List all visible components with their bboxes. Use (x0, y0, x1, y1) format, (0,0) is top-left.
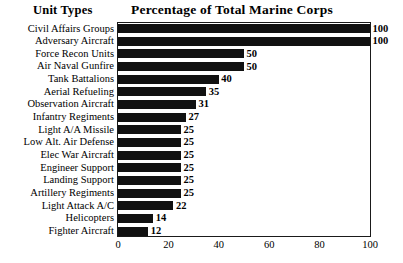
bar-container: 35 (118, 87, 206, 96)
bar-row: Force Recon Units50 (0, 47, 403, 60)
bar (118, 37, 370, 46)
x-axis-tick-label: 60 (264, 239, 275, 250)
bar-value-label: 40 (219, 73, 232, 85)
bar-container: 22 (118, 201, 173, 210)
bar-value-label: 50 (244, 48, 257, 60)
bar (118, 75, 219, 84)
bar-category-label: Civil Affairs Groups (28, 22, 114, 35)
unit-types-column-heading: Unit Types (33, 3, 93, 18)
bar-chart: Unit Types Percentage of Total Marine Co… (0, 0, 403, 263)
bar-row: Light Attack A/C22 (0, 199, 403, 212)
bar-category-label: Helicopters (66, 211, 114, 224)
bar-row: Elec War Aircraft25 (0, 148, 403, 161)
bar-value-label: 35 (206, 86, 219, 98)
bar-value-label: 25 (181, 162, 194, 174)
bar-container: 25 (118, 138, 181, 147)
bar-row: Light A/A Missile25 (0, 123, 403, 136)
bar (118, 100, 196, 109)
x-axis-tick-label: 100 (362, 239, 378, 250)
bar (118, 87, 206, 96)
bar-row: Air Naval Gunfire50 (0, 60, 403, 73)
bar (118, 176, 181, 185)
bar-category-label: Adversary Aircraft (35, 34, 114, 47)
bar (118, 24, 370, 33)
bar-value-label: 22 (173, 200, 186, 212)
bar-container: 25 (118, 163, 181, 172)
bar-container: 25 (118, 151, 181, 160)
bar-container: 100 (118, 37, 370, 46)
bar-value-label: 14 (153, 212, 166, 224)
bar (118, 151, 181, 160)
bar-value-label: 25 (181, 136, 194, 148)
bar (118, 125, 181, 134)
bar-value-label: 27 (186, 111, 199, 123)
bar-container: 25 (118, 176, 181, 185)
bar-row: Infantry Regiments27 (0, 111, 403, 124)
bar (118, 163, 181, 172)
bar-category-label: Fighter Aircraft (48, 224, 114, 237)
bar-container: 25 (118, 189, 181, 198)
bar (118, 201, 173, 210)
bar-row: Tank Battalions40 (0, 73, 403, 86)
x-axis-tick-label: 80 (314, 239, 325, 250)
bar-container: 31 (118, 100, 196, 109)
bar-container: 40 (118, 75, 219, 84)
bar-value-label: 100 (370, 35, 388, 47)
bar-container: 27 (118, 113, 186, 122)
bar-category-label: Force Recon Units (35, 47, 114, 60)
bar-row: Engineer Support25 (0, 161, 403, 174)
bar (118, 138, 181, 147)
bar-rows: Civil Affairs Groups100Adversary Aircraf… (0, 22, 403, 237)
bar (118, 62, 244, 71)
bar-category-label: Air Naval Gunfire (37, 59, 114, 72)
bar-container: 50 (118, 49, 244, 58)
chart-title: Percentage of Total Marine Corps (131, 2, 333, 18)
x-axis: 020406080100 (0, 239, 403, 259)
bar-category-label: Elec War Aircraft (40, 148, 114, 161)
bar (118, 113, 186, 122)
bar-row: Fighter Aircraft12 (0, 224, 403, 237)
bar-category-label: Observation Aircraft (27, 97, 114, 110)
x-axis-tick-label: 20 (163, 239, 174, 250)
x-axis-tick-label: 0 (115, 239, 120, 250)
bar-value-label: 25 (181, 149, 194, 161)
bar-container: 14 (118, 214, 153, 223)
bar (118, 214, 153, 223)
bar-value-label: 25 (181, 174, 194, 186)
bar-category-label: Aerial Refueling (44, 85, 114, 98)
bar-category-label: Light Attack A/C (42, 199, 114, 212)
bar-row: Aerial Refueling35 (0, 85, 403, 98)
bar-category-label: Tank Battalions (48, 72, 114, 85)
bar-row: Adversary Aircraft100 (0, 35, 403, 48)
bar-category-label: Light A/A Missile (38, 123, 114, 136)
bar (118, 189, 181, 198)
bar-category-label: Landing Support (43, 173, 114, 186)
bar-container: 25 (118, 125, 181, 134)
bar-row: Helicopters14 (0, 212, 403, 225)
bar-container: 100 (118, 24, 370, 33)
bar-row: Civil Affairs Groups100 (0, 22, 403, 35)
bar (118, 49, 244, 58)
x-axis-tick-label: 40 (214, 239, 225, 250)
bar-category-label: Infantry Regiments (33, 110, 114, 123)
bar-value-label: 12 (148, 225, 161, 237)
bar-value-label: 100 (370, 23, 388, 35)
bar-row: Low Alt. Air Defense25 (0, 136, 403, 149)
bar-container: 12 (118, 227, 148, 236)
bar-value-label: 31 (196, 98, 209, 110)
bar-container: 50 (118, 62, 244, 71)
bar-category-label: Artillery Regiments (30, 186, 114, 199)
bar-value-label: 50 (244, 61, 257, 73)
bar-value-label: 25 (181, 187, 194, 199)
bar-row: Artillery Regiments25 (0, 186, 403, 199)
bar-category-label: Engineer Support (40, 161, 114, 174)
bar-value-label: 25 (181, 124, 194, 136)
bar-category-label: Low Alt. Air Defense (24, 135, 114, 148)
bar (118, 227, 148, 236)
bar-row: Observation Aircraft31 (0, 98, 403, 111)
bar-row: Landing Support25 (0, 174, 403, 187)
